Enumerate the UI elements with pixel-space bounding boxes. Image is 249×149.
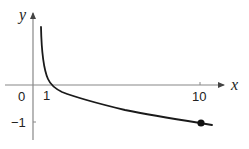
function-graph: y x 0 1 10 −1 xyxy=(0,0,249,149)
x-tick-label-10: 10 xyxy=(192,89,206,104)
origin-label: 0 xyxy=(18,89,25,104)
y-tick-label-neg1: −1 xyxy=(11,115,26,130)
curve-line xyxy=(41,27,212,125)
marked-point xyxy=(197,119,204,126)
x-tick-label-1: 1 xyxy=(43,88,50,103)
x-axis-label: x xyxy=(230,76,238,93)
y-axis-label: y xyxy=(17,6,27,24)
